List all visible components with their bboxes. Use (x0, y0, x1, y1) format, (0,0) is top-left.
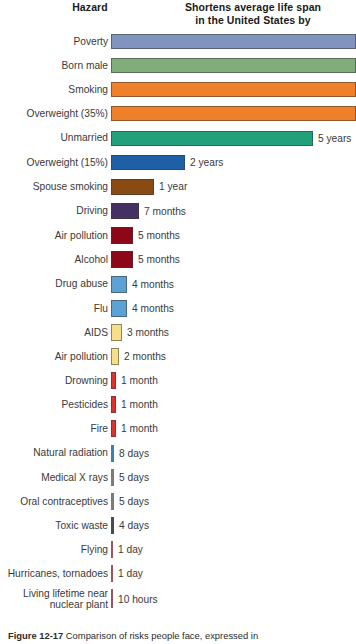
lifespan-header-line-1: Shortens average life span (150, 1, 356, 14)
chart-row: Living lifetime near nuclear plant10 hou… (0, 589, 356, 611)
row-value-label: 5 months (138, 230, 180, 241)
hazard-column-header: Hazard (30, 1, 150, 13)
chart-header: Hazard Shortens average life span in the… (0, 0, 356, 30)
row-value-label: 1 day (118, 544, 143, 555)
row-value-label: 5 months (138, 254, 180, 265)
bar (111, 372, 116, 389)
row-label: Flying (0, 544, 108, 555)
row-label: Spouse smoking (0, 181, 108, 192)
row-label: Fire (0, 423, 108, 434)
chart-row: Natural radiation8 days (0, 445, 356, 467)
bar (111, 517, 114, 534)
bar (111, 179, 154, 195)
row-label: Toxic waste (0, 520, 108, 531)
bar (111, 82, 356, 97)
chart-row: Alcohol5 months (0, 251, 356, 273)
bar (111, 420, 116, 437)
row-value-label: 1 month (121, 399, 158, 410)
chart-row: Hurricanes, tornadoes1 day (0, 565, 356, 587)
bar (111, 469, 114, 486)
row-label: Air pollution (0, 351, 108, 362)
chart-row: Oral contraceptives5 days (0, 493, 356, 515)
row-value-label: 4 months (132, 303, 174, 314)
bar (111, 541, 113, 558)
chart-row: Air pollution2 months (0, 348, 356, 370)
row-value-label: 5 days (119, 496, 149, 507)
row-value-label: 1 year (159, 181, 187, 192)
row-label: Overweight (15%) (0, 157, 108, 168)
row-label: Air pollution (0, 230, 108, 241)
figure-caption-text: Comparison of risks people face, express… (66, 630, 258, 641)
row-label: Drowning (0, 375, 108, 386)
chart-row: Overweight (35%) (0, 106, 356, 128)
bar (111, 445, 114, 462)
bar (111, 396, 116, 413)
chart-row: Driving7 months (0, 203, 356, 225)
chart-row: Spouse smoking1 year (0, 179, 356, 201)
row-label: Born male (0, 60, 108, 71)
figure-caption: Figure 12-17 Comparison of risks people … (8, 630, 352, 644)
row-label: Overweight (35%) (0, 108, 108, 119)
bar (111, 300, 127, 317)
row-value-label: 4 months (132, 279, 174, 290)
chart-row: Unmarried5 years (0, 131, 356, 153)
row-value-label: 7 months (144, 206, 186, 217)
row-label: Poverty (0, 36, 108, 47)
bar (111, 34, 356, 49)
row-value-label: 1 day (118, 568, 143, 579)
bar (111, 58, 356, 73)
row-label: Medical X rays (0, 472, 108, 483)
row-label: Pesticides (0, 399, 108, 410)
bar (111, 106, 356, 121)
row-label: Drug abuse (0, 278, 108, 289)
chart-row: Medical X rays5 days (0, 469, 356, 491)
bar (111, 589, 113, 608)
chart-row: Smoking (0, 82, 356, 104)
bar-chart-plot-area: PovertyBorn maleSmokingOverweight (35%)U… (0, 30, 356, 618)
chart-row: Fire1 month (0, 420, 356, 442)
chart-row: Flu4 months (0, 300, 356, 322)
figure-number: Figure 12-17 (8, 630, 63, 641)
row-value-label: 8 days (119, 448, 149, 459)
chart-row: Overweight (15%)2 years (0, 155, 356, 177)
chart-row: Flying1 day (0, 541, 356, 563)
chart-row: Poverty (0, 34, 356, 56)
bar (111, 155, 185, 170)
chart-row: Air pollution5 months (0, 227, 356, 249)
chart-row: Toxic waste4 days (0, 517, 356, 539)
row-value-label: 4 days (119, 520, 149, 531)
chart-row: Drug abuse4 months (0, 276, 356, 298)
row-value-label: 1 month (121, 375, 158, 386)
bar (111, 348, 119, 365)
row-label: Alcohol (0, 254, 108, 265)
row-label: Living lifetime near nuclear plant (0, 588, 108, 610)
row-value-label: 5 days (119, 472, 149, 483)
row-value-label: 1 month (121, 423, 158, 434)
chart-row: AIDS3 months (0, 324, 356, 346)
row-value-label: 2 years (190, 157, 223, 168)
bar (111, 493, 114, 510)
lifespan-column-header: Shortens average life span in the United… (150, 1, 356, 26)
row-label: Smoking (0, 84, 108, 95)
lifespan-header-line-2: in the United States by (150, 14, 356, 27)
row-value-label: 3 months (127, 327, 169, 338)
row-value-label: 2 months (124, 351, 166, 362)
chart-row: Born male (0, 58, 356, 80)
bar (111, 227, 133, 244)
bar (111, 251, 133, 268)
row-label: Natural radiation (0, 447, 108, 458)
row-label: Hurricanes, tornadoes (0, 568, 108, 579)
row-label: Flu (0, 303, 108, 314)
row-label: Unmarried (0, 132, 108, 143)
figure-container: Hazard Shortens average life span in the… (0, 0, 356, 644)
chart-row: Drowning1 month (0, 372, 356, 394)
bar (111, 324, 122, 341)
bar (111, 131, 313, 146)
bar (111, 203, 139, 219)
row-label: AIDS (0, 327, 108, 338)
chart-row: Pesticides1 month (0, 396, 356, 418)
bar (111, 565, 113, 582)
row-label: Oral contraceptives (0, 496, 108, 507)
row-label: Driving (0, 205, 108, 216)
bar (111, 276, 127, 293)
